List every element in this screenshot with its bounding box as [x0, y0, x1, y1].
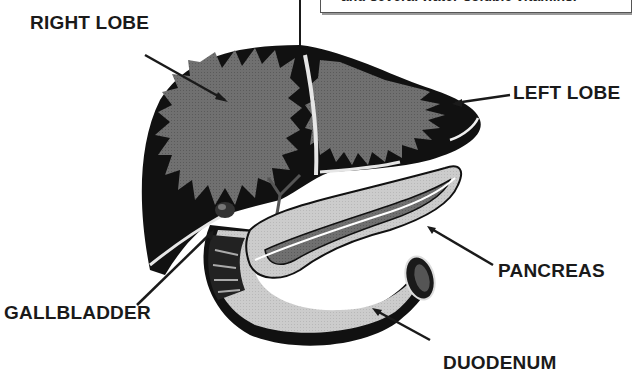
label-duodenum: DUODENUM — [443, 352, 557, 372]
label-gallbladder: GALLBLADDER — [4, 302, 151, 324]
label-left-lobe: LEFT LOBE — [513, 82, 620, 104]
pancreas-leader — [430, 228, 493, 265]
label-right-lobe: RIGHT LOBE — [30, 12, 149, 34]
label-pancreas: PANCREAS — [498, 260, 605, 282]
gallbladder-body — [215, 202, 235, 218]
gallbladder — [215, 202, 235, 218]
left-lobe-leader — [455, 95, 510, 103]
